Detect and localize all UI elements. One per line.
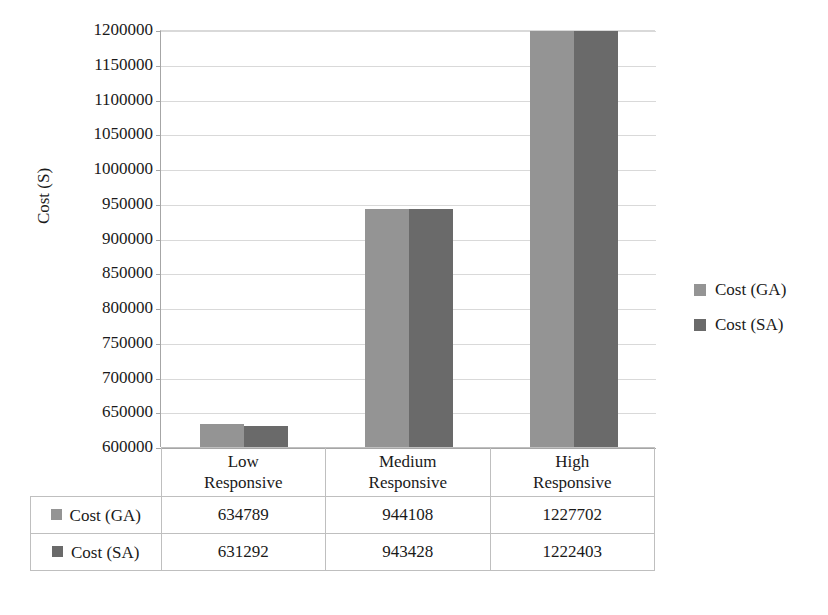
table-value-cell: 634789 [161,497,326,534]
series-swatch-icon [51,509,62,520]
table-column-header: LowResponsive [161,448,326,497]
table-column-header: HighResponsive [490,448,655,497]
table-series-label-cell: Cost (GA) [31,497,162,534]
legend-swatch-icon [694,319,706,331]
legend-item[interactable]: Cost (GA) [694,272,786,307]
table-row: Cost (GA)6347899441081227702 [31,497,655,534]
table-value-cell: 631292 [161,534,326,571]
legend-label: Cost (GA) [715,281,786,298]
table-value-cell: 944108 [326,497,491,534]
series-swatch-icon [52,546,63,557]
table-corner-cell [31,448,162,497]
table-value-cell: 943428 [326,534,491,571]
y-axis-tick-label: 750000 [33,334,153,351]
table-value-cell: 1227702 [490,497,655,534]
y-axis-tick-label: 650000 [33,403,153,420]
y-axis-tick-label: 1050000 [33,125,153,142]
legend-item[interactable]: Cost (SA) [694,307,786,342]
table-series-label-cell: Cost (SA) [31,534,162,571]
bar [200,424,244,448]
y-axis-tick-label: 900000 [33,230,153,247]
plot-area [160,30,655,447]
bar [530,31,574,448]
table-header-row: LowResponsiveMediumResponsiveHighRespons… [31,448,655,497]
y-axis-tick-label: 1200000 [33,21,153,38]
data-table: LowResponsiveMediumResponsiveHighRespons… [30,447,655,571]
bar [365,209,409,448]
table-value-cell: 1222403 [490,534,655,571]
bar [574,31,618,448]
y-axis-tick-label: 1100000 [33,91,153,108]
bar [409,209,453,448]
y-axis-tick-label: 950000 [33,195,153,212]
y-axis-tick-label: 700000 [33,369,153,386]
legend-label: Cost (SA) [715,316,783,333]
y-axis-tick-label: 800000 [33,299,153,316]
table-row: Cost (SA)6312929434281222403 [31,534,655,571]
y-axis-tick-label: 1000000 [33,160,153,177]
y-axis-tick-label: 850000 [33,264,153,281]
bar [244,426,288,448]
series-name: Cost (SA) [71,543,139,563]
table-column-header: MediumResponsive [326,448,491,497]
legend-swatch-icon [694,284,706,296]
y-axis-tick-labels: 1200000115000011000001050000100000095000… [25,30,153,447]
series-name: Cost (GA) [70,506,141,526]
chart-canvas: Cost (S) 1200000115000011000001050000100… [0,0,828,615]
chart-legend: Cost (GA)Cost (SA) [694,272,786,342]
y-axis-tick-label: 1150000 [33,56,153,73]
bars-layer [161,31,656,448]
